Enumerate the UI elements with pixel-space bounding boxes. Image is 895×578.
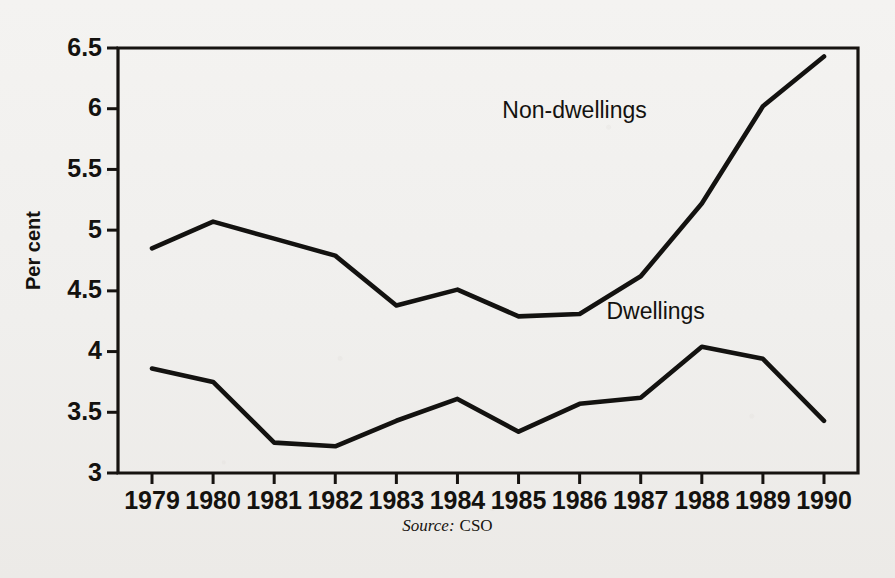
y-axis-tick-label: 4 — [88, 336, 102, 364]
x-axis-tick-label: 1987 — [613, 486, 669, 514]
x-axis-tick-label: 1985 — [491, 486, 547, 514]
y-axis-tick-label: 6 — [88, 93, 102, 121]
y-axis-tick-label: 4.5 — [67, 275, 102, 303]
series-label-dwellings: Dwellings — [606, 298, 704, 324]
y-axis-tick-label: 5 — [88, 215, 102, 243]
x-axis-tick-label: 1981 — [246, 486, 302, 514]
line-chart: 33.544.555.566.5197919801981198219831984… — [0, 0, 895, 578]
x-axis-tick-label: 1989 — [735, 486, 791, 514]
series-line-dwellings — [152, 347, 824, 447]
series-line-non-dwellings — [152, 57, 824, 317]
x-axis-tick-label: 1986 — [552, 486, 608, 514]
y-axis-tick-label: 3.5 — [67, 397, 102, 425]
source-value: CSO — [460, 516, 493, 535]
x-axis-tick-label: 1982 — [307, 486, 363, 514]
source-label: Source: — [402, 516, 454, 535]
source-note: Source:CSO — [0, 516, 895, 536]
x-axis-tick-label: 1984 — [430, 486, 486, 514]
x-axis-tick-label: 1990 — [796, 486, 852, 514]
x-axis-tick-label: 1979 — [124, 486, 180, 514]
x-axis-tick-label: 1988 — [674, 486, 730, 514]
y-axis-tick-label: 3 — [88, 458, 102, 486]
y-axis-tick-label: 5.5 — [67, 154, 102, 182]
plot-frame — [118, 48, 858, 473]
x-axis-tick-label: 1983 — [369, 486, 425, 514]
x-axis-tick-label: 1980 — [185, 486, 241, 514]
series-label-non-dwellings: Non-dwellings — [502, 97, 646, 123]
y-axis-title: Per cent — [22, 211, 44, 290]
y-axis-tick-label: 6.5 — [67, 33, 102, 61]
figure-container: 33.544.555.566.5197919801981198219831984… — [0, 0, 895, 578]
